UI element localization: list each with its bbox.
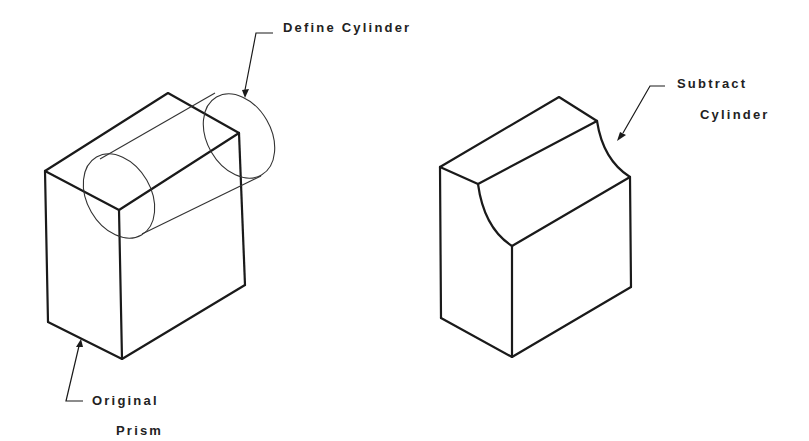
define-cylinder-leader (242, 33, 273, 98)
define-cylinder-label: Define Cylinder (283, 20, 411, 35)
subtract-cylinder-leader (617, 86, 665, 141)
subtract-cylinder-label-line2: Cylinder (700, 107, 770, 122)
subtract-cylinder-label-line1: Subtract (677, 76, 747, 91)
leader-arrowhead-icon (242, 89, 249, 98)
defined-cylinder (69, 81, 289, 251)
original-prism-label-line2: Prism (116, 423, 163, 438)
original-prism-label-line1: Original (92, 393, 159, 408)
leader-arrowhead-icon (617, 132, 626, 141)
result-solid (440, 97, 631, 357)
boolean-subtract-diagram (0, 0, 809, 441)
original-prism-leader (66, 339, 83, 401)
